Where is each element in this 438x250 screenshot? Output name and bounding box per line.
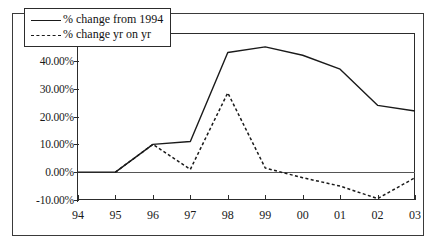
y-axis-tick-mark [74,144,79,145]
plot-area [78,33,415,200]
x-axis-tick-mark [190,195,191,200]
x-axis-tick-mark [378,195,379,200]
y-axis-tick-mark [74,117,79,118]
chart-legend: % change from 1994 % change yr on yr [24,8,171,47]
y-axis-tick-label: 30.00% [40,83,74,95]
legend-label-change-yr-on-yr: % change yr on yr [63,27,151,42]
x-axis-tick-label: 98 [222,208,234,223]
x-axis-tick-mark [415,195,416,200]
y-axis-tick-label: -10.00% [36,194,74,206]
x-axis-tick-label: 03 [409,208,421,223]
y-axis-tick-label: 10.00% [40,138,74,150]
data-series-layer [78,33,415,200]
x-axis-tick-label: 94 [72,208,84,223]
x-axis-tick-mark [78,195,79,200]
x-axis-tick-mark [265,195,266,200]
x-axis-tick-label: 01 [334,208,346,223]
x-axis-tick-mark [303,195,304,200]
series-line-solid [78,47,415,172]
series-line-dashed [115,93,415,199]
legend-item-change-yr-on-yr: % change yr on yr [31,27,163,42]
legend-key-solid-line-icon [31,15,61,25]
x-axis-tick-label: 97 [184,208,196,223]
x-axis-tick-mark [153,195,154,200]
x-axis-tick-label: 95 [109,208,121,223]
y-axis-tick-label: 0.00% [45,166,74,178]
x-axis-labels: 94959697989900010203 [78,206,415,228]
x-axis-tick-mark [115,195,116,200]
chart-figure: 50.00%40.00%30.00%20.00%10.00%0.00%-10.0… [0,0,438,250]
y-axis-tick-label: 20.00% [40,111,74,123]
x-axis-tick-mark [228,195,229,200]
y-axis-labels: 50.00%40.00%30.00%20.00%10.00%0.00%-10.0… [0,33,74,200]
x-axis-tick-label: 99 [259,208,271,223]
x-axis-tick-label: 02 [372,208,384,223]
y-axis-tick-mark [74,89,79,90]
legend-key-dashed-line-icon [31,30,61,40]
x-axis-tick-label: 96 [147,208,159,223]
legend-label-change-from-1994: % change from 1994 [63,12,163,27]
y-axis-tick-mark [74,200,79,201]
legend-item-change-from-1994: % change from 1994 [31,12,163,27]
y-axis-tick-mark [74,172,79,173]
y-axis-tick-mark [74,61,79,62]
x-axis-tick-label: 00 [297,208,309,223]
x-axis-tick-mark [340,195,341,200]
y-axis-tick-label: 40.00% [40,55,74,67]
